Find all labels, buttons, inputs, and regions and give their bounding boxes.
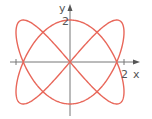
y-axis-arrow-icon <box>68 4 73 11</box>
lissajous-diagram: y 2 2 x <box>0 0 152 119</box>
y-tick-label: 2 <box>62 15 69 28</box>
y-axis-label: y <box>59 2 66 15</box>
x-tick-label: 2 <box>121 68 128 81</box>
x-axis-label: x <box>133 68 140 81</box>
x-axis-arrow-icon <box>133 60 140 65</box>
